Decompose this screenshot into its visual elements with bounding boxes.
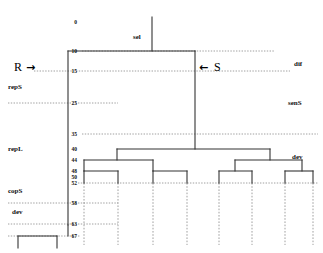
- label-dif: dif: [294, 60, 302, 68]
- label-repL: repL: [8, 145, 23, 153]
- tick-label-40: 40: [63, 146, 77, 152]
- tick-label-58: 58: [63, 200, 77, 206]
- label-R: R: [14, 61, 22, 73]
- tick-label-15: 15: [63, 68, 77, 74]
- label-copS: copS: [8, 187, 22, 195]
- label-sel: sel: [133, 33, 141, 41]
- tick-label-63: 63: [63, 221, 77, 227]
- label-dev-left: dev: [12, 208, 23, 216]
- right-pointing-arrow-icon: →: [26, 62, 35, 73]
- tick-label-25: 25: [63, 100, 77, 106]
- tick-label-44: 44: [63, 157, 77, 163]
- tick-label-52: 52: [63, 180, 77, 186]
- label-repS: repS: [8, 83, 22, 91]
- dendrogram-figure: 0 10 15 25 35 40 44 48 50 52 58 63 67 se…: [0, 0, 323, 253]
- tick-label-35: 35: [63, 131, 77, 137]
- left-pointing-arrow-icon: ←: [199, 62, 208, 73]
- dotted-level-lines: [8, 51, 318, 236]
- tick-label-10: 10: [63, 48, 77, 54]
- leaf-drop-lines: [84, 183, 313, 245]
- dendrogram-canvas: [0, 0, 323, 253]
- tick-label-67: 67: [63, 233, 77, 239]
- label-senS: senS: [288, 99, 302, 107]
- label-dev-right: dev: [292, 153, 303, 161]
- label-S: S: [214, 61, 221, 73]
- tick-label-0: 0: [63, 19, 77, 25]
